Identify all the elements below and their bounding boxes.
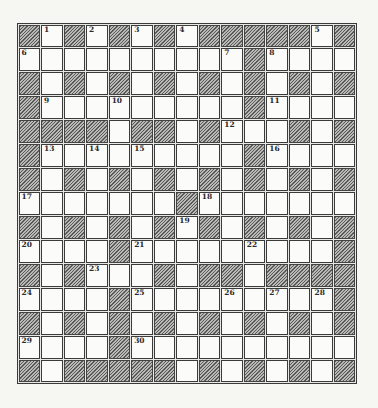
answer-cell[interactable] bbox=[311, 312, 333, 335]
answer-cell[interactable] bbox=[109, 120, 131, 143]
answer-cell[interactable]: 22 bbox=[244, 240, 266, 263]
answer-cell[interactable]: 21 bbox=[131, 240, 153, 263]
answer-cell[interactable] bbox=[154, 144, 176, 167]
answer-cell[interactable] bbox=[154, 288, 176, 311]
answer-cell[interactable] bbox=[266, 312, 288, 335]
answer-cell[interactable] bbox=[311, 192, 333, 215]
answer-cell[interactable] bbox=[131, 312, 153, 335]
answer-cell[interactable] bbox=[64, 48, 86, 71]
answer-cell[interactable] bbox=[334, 48, 356, 71]
answer-cell[interactable]: 27 bbox=[266, 288, 288, 311]
answer-cell[interactable] bbox=[221, 168, 243, 191]
answer-cell[interactable] bbox=[41, 336, 63, 359]
answer-cell[interactable] bbox=[289, 48, 311, 71]
answer-cell[interactable] bbox=[176, 144, 198, 167]
answer-cell[interactable] bbox=[176, 288, 198, 311]
answer-cell[interactable] bbox=[41, 48, 63, 71]
answer-cell[interactable] bbox=[131, 216, 153, 239]
answer-cell[interactable]: 7 bbox=[221, 48, 243, 71]
answer-cell[interactable] bbox=[176, 96, 198, 119]
answer-cell[interactable] bbox=[64, 240, 86, 263]
answer-cell[interactable] bbox=[334, 336, 356, 359]
answer-cell[interactable] bbox=[266, 168, 288, 191]
answer-cell[interactable] bbox=[131, 72, 153, 95]
answer-cell[interactable] bbox=[221, 96, 243, 119]
answer-cell[interactable] bbox=[131, 48, 153, 71]
answer-cell[interactable] bbox=[176, 336, 198, 359]
answer-cell[interactable] bbox=[154, 48, 176, 71]
answer-cell[interactable] bbox=[41, 288, 63, 311]
answer-cell[interactable] bbox=[334, 192, 356, 215]
answer-cell[interactable] bbox=[311, 120, 333, 143]
answer-cell[interactable] bbox=[221, 72, 243, 95]
answer-cell[interactable]: 28 bbox=[311, 288, 333, 311]
answer-cell[interactable] bbox=[176, 264, 198, 287]
answer-cell[interactable] bbox=[199, 144, 221, 167]
answer-cell[interactable] bbox=[199, 48, 221, 71]
answer-cell[interactable] bbox=[221, 312, 243, 335]
answer-cell[interactable] bbox=[221, 360, 243, 383]
answer-cell[interactable] bbox=[221, 144, 243, 167]
answer-cell[interactable] bbox=[86, 96, 108, 119]
answer-cell[interactable] bbox=[41, 168, 63, 191]
answer-cell[interactable] bbox=[289, 240, 311, 263]
answer-cell[interactable] bbox=[199, 96, 221, 119]
answer-cell[interactable]: 30 bbox=[131, 336, 153, 359]
answer-cell[interactable]: 4 bbox=[176, 25, 198, 48]
answer-cell[interactable] bbox=[131, 192, 153, 215]
answer-cell[interactable] bbox=[86, 240, 108, 263]
answer-cell[interactable] bbox=[176, 48, 198, 71]
answer-cell[interactable] bbox=[86, 336, 108, 359]
answer-cell[interactable] bbox=[199, 288, 221, 311]
answer-cell[interactable] bbox=[266, 240, 288, 263]
answer-cell[interactable]: 1 bbox=[41, 25, 63, 48]
answer-cell[interactable]: 26 bbox=[221, 288, 243, 311]
answer-cell[interactable] bbox=[41, 216, 63, 239]
answer-cell[interactable] bbox=[176, 72, 198, 95]
answer-cell[interactable] bbox=[289, 336, 311, 359]
answer-cell[interactable] bbox=[311, 96, 333, 119]
answer-cell[interactable] bbox=[176, 240, 198, 263]
answer-cell[interactable] bbox=[266, 120, 288, 143]
answer-cell[interactable] bbox=[266, 336, 288, 359]
answer-cell[interactable]: 8 bbox=[266, 48, 288, 71]
answer-cell[interactable] bbox=[334, 96, 356, 119]
answer-cell[interactable] bbox=[41, 264, 63, 287]
answer-cell[interactable] bbox=[311, 72, 333, 95]
answer-cell[interactable] bbox=[311, 360, 333, 383]
answer-cell[interactable] bbox=[86, 168, 108, 191]
answer-cell[interactable] bbox=[176, 120, 198, 143]
answer-cell[interactable] bbox=[311, 240, 333, 263]
answer-cell[interactable] bbox=[221, 192, 243, 215]
answer-cell[interactable] bbox=[109, 264, 131, 287]
answer-cell[interactable] bbox=[64, 192, 86, 215]
answer-cell[interactable] bbox=[289, 96, 311, 119]
answer-cell[interactable] bbox=[131, 264, 153, 287]
answer-cell[interactable]: 10 bbox=[109, 96, 131, 119]
answer-cell[interactable] bbox=[64, 336, 86, 359]
answer-cell[interactable] bbox=[109, 48, 131, 71]
answer-cell[interactable] bbox=[244, 336, 266, 359]
answer-cell[interactable] bbox=[311, 48, 333, 71]
answer-cell[interactable] bbox=[131, 96, 153, 119]
answer-cell[interactable] bbox=[64, 144, 86, 167]
answer-cell[interactable]: 24 bbox=[19, 288, 41, 311]
answer-cell[interactable]: 19 bbox=[176, 216, 198, 239]
answer-cell[interactable] bbox=[86, 72, 108, 95]
answer-cell[interactable]: 17 bbox=[19, 192, 41, 215]
answer-cell[interactable]: 16 bbox=[266, 144, 288, 167]
answer-cell[interactable] bbox=[244, 264, 266, 287]
answer-cell[interactable] bbox=[266, 192, 288, 215]
answer-cell[interactable]: 18 bbox=[199, 192, 221, 215]
answer-cell[interactable] bbox=[244, 288, 266, 311]
answer-cell[interactable]: 6 bbox=[19, 48, 41, 71]
answer-cell[interactable] bbox=[221, 240, 243, 263]
answer-cell[interactable] bbox=[311, 168, 333, 191]
answer-cell[interactable]: 13 bbox=[41, 144, 63, 167]
answer-cell[interactable]: 5 bbox=[311, 25, 333, 48]
answer-cell[interactable] bbox=[334, 144, 356, 167]
answer-cell[interactable] bbox=[131, 168, 153, 191]
answer-cell[interactable] bbox=[41, 192, 63, 215]
answer-cell[interactable] bbox=[199, 336, 221, 359]
answer-cell[interactable] bbox=[221, 336, 243, 359]
